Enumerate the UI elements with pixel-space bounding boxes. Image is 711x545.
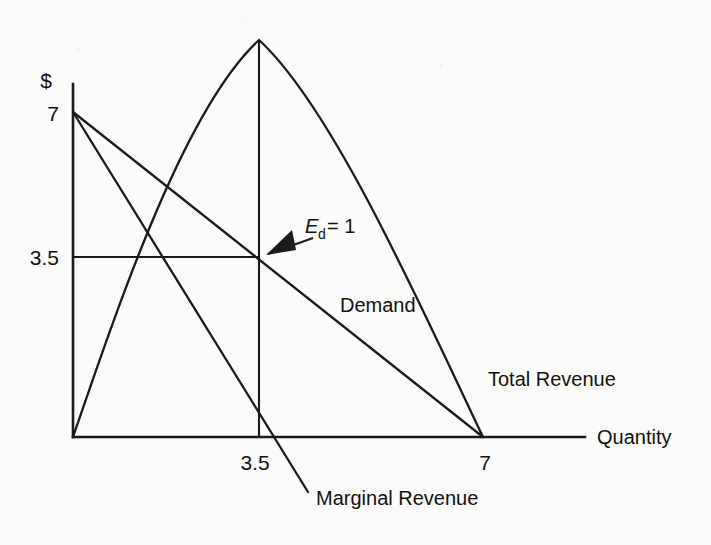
elasticity-symbol: E [305, 215, 319, 237]
marginal-revenue-curve [73, 112, 308, 492]
economics-demand-revenue-chart: $ 7 3.5 3.5 7 Quantity Demand Total Reve… [0, 0, 711, 545]
demand-label: Demand [340, 294, 416, 316]
x-tick-label-3point5: 3.5 [240, 451, 269, 474]
total-revenue-label: Total Revenue [488, 368, 616, 390]
y-tick-label-3point5: 3.5 [30, 246, 59, 269]
total-revenue-curve [73, 40, 483, 437]
elasticity-value: = 1 [327, 215, 355, 237]
elasticity-subscript: d [318, 226, 326, 242]
marginal-revenue-label: Marginal Revenue [316, 487, 478, 509]
demand-curve [73, 112, 483, 437]
y-tick-label-7: 7 [47, 102, 59, 125]
elasticity-arrow-head [266, 230, 296, 255]
x-tick-label-7: 7 [479, 451, 491, 474]
x-axis-title: Quantity [597, 426, 671, 448]
y-axis-currency-label: $ [40, 69, 52, 92]
